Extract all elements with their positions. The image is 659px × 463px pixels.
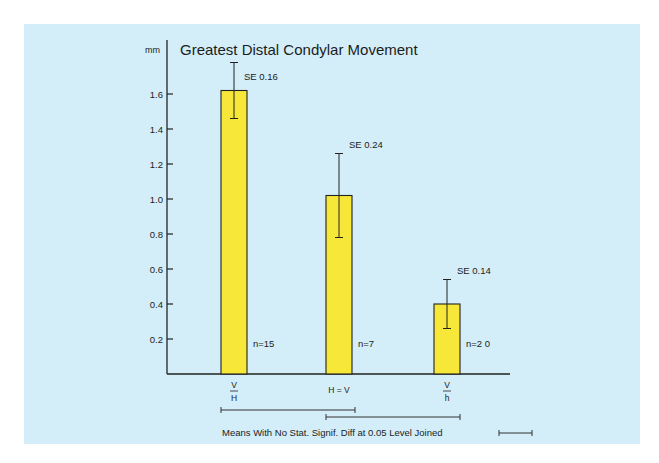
y-tick-label: 1.4	[150, 124, 163, 135]
se-label: SE 0.16	[244, 71, 278, 82]
x-label: H = V	[328, 385, 350, 395]
bar	[221, 91, 247, 375]
chart-title: Greatest Distal Condylar Movement	[180, 41, 418, 58]
se-label: SE 0.24	[349, 139, 383, 150]
bar-group: SE 0.14n=2 0	[434, 265, 491, 375]
bar-group: SE 0.24n=7	[326, 139, 383, 375]
x-label-denominator: h	[445, 393, 450, 403]
significance-bracket	[221, 407, 355, 413]
y-tick-label: 0.8	[150, 229, 163, 240]
n-label: n=7	[358, 338, 374, 349]
y-tick-label: 0.2	[150, 334, 163, 345]
n-label: n=15	[253, 338, 274, 349]
y-tick-label: 1.6	[150, 89, 163, 100]
y-tick-label: 0.4	[150, 299, 163, 310]
legend-text: Means With No Stat. Signif. Diff at 0.05…	[222, 427, 443, 438]
bar-chart: mm Greatest Distal Condylar Movement 0.2…	[0, 0, 659, 463]
y-tick-label: 1.2	[150, 159, 163, 170]
bar-group: SE 0.16n=15	[221, 63, 278, 375]
y-tick-label: 1.0	[150, 194, 163, 205]
legend-bracket-sample	[499, 430, 532, 436]
x-axis-labels: VHH = VVh	[230, 380, 451, 403]
significance-brackets	[221, 407, 460, 420]
significance-bracket	[326, 414, 460, 420]
x-label-denominator: H	[231, 393, 237, 403]
y-axis-unit: mm	[145, 45, 160, 55]
y-axis-ticks: 0.20.40.60.81.01.21.41.6	[150, 89, 173, 345]
x-label-numerator: V	[444, 380, 450, 390]
n-label: n=2 0	[466, 338, 490, 349]
y-tick-label: 0.6	[150, 264, 163, 275]
x-label-numerator: V	[231, 380, 237, 390]
se-label: SE 0.14	[457, 265, 491, 276]
bars: SE 0.16n=15SE 0.24n=7SE 0.14n=2 0	[221, 63, 491, 375]
